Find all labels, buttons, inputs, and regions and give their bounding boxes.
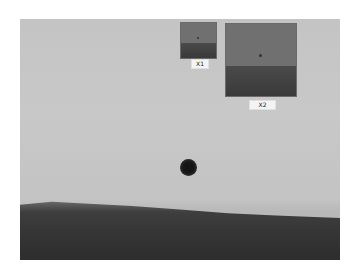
inset-sky — [226, 24, 296, 66]
inset-object — [197, 37, 199, 39]
inset-x2 — [225, 23, 297, 97]
inset-sky — [181, 23, 216, 43]
inset-ground — [181, 43, 216, 58]
inset-x1 — [180, 22, 217, 59]
inset-ground — [226, 66, 296, 96]
inset-label-x2: X2 — [249, 100, 276, 110]
inset-object — [259, 54, 262, 57]
inset-label-x1: X1 — [191, 59, 209, 69]
horizon-treeline — [20, 200, 340, 260]
photo: X1 X2 — [20, 19, 340, 260]
target-object — [180, 159, 197, 176]
